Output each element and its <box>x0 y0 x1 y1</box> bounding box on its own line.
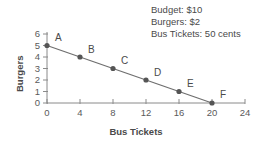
x-tick-label-16: 16 <box>169 108 189 118</box>
x-tick-label-20: 20 <box>202 108 222 118</box>
point-label-b: B <box>88 45 95 55</box>
y-tick-label-1: 1 <box>26 87 40 97</box>
data-point-f <box>209 100 214 105</box>
y-tick-label-0: 0 <box>26 98 40 108</box>
y-tick-label-6: 6 <box>26 29 40 39</box>
data-point-a <box>44 43 49 48</box>
annotation-bus-tickets: Bus Tickets: 50 cents <box>151 28 241 39</box>
x-tick-label-24: 24 <box>235 108 255 118</box>
point-label-c: C <box>121 56 128 66</box>
point-label-d: D <box>154 68 161 78</box>
data-point-e <box>176 89 181 94</box>
budget-constraint-line <box>47 46 212 104</box>
budget-constraint-chart: Budget: $10 Burgers: $2 Bus Tickets: 50 … <box>0 0 272 146</box>
x-axis-title: Bus Tickets <box>0 126 272 137</box>
y-tick-label-2: 2 <box>26 75 40 85</box>
data-point-c <box>110 66 115 71</box>
point-label-e: E <box>187 79 194 89</box>
y-tick-label-4: 4 <box>26 52 40 62</box>
point-label-f: F <box>220 90 226 100</box>
annotation-burgers: Burgers: $2 <box>151 16 200 27</box>
x-tick-label-4: 4 <box>70 108 90 118</box>
y-tick-label-3: 3 <box>26 64 40 74</box>
y-axis-title: Burgers <box>14 56 25 92</box>
x-tick-label-12: 12 <box>136 108 156 118</box>
data-point-d <box>143 77 148 82</box>
plot-area <box>0 0 272 146</box>
annotation-budget: Budget: $10 <box>151 4 202 15</box>
x-tick-label-0: 0 <box>37 108 57 118</box>
x-tick-label-8: 8 <box>103 108 123 118</box>
point-label-a: A <box>55 33 62 43</box>
y-tick-label-5: 5 <box>26 41 40 51</box>
data-point-b <box>77 54 82 59</box>
